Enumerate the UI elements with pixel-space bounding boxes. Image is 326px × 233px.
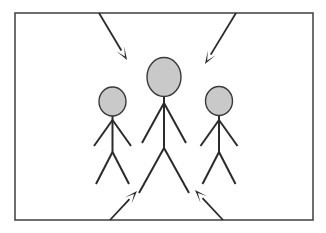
right-figure-head <box>206 87 233 116</box>
diagram-canvas <box>0 0 326 233</box>
left-figure-head <box>99 87 126 116</box>
scene-svg <box>0 0 326 233</box>
center-figure-head <box>147 58 181 97</box>
